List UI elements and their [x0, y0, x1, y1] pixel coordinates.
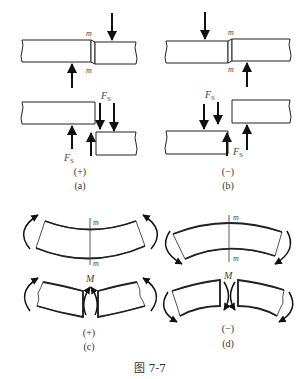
- figure-caption: 图 7-7: [134, 362, 166, 375]
- panel-label: (a): [74, 180, 85, 192]
- moment-label: M: [223, 270, 233, 281]
- sign-label: (−): [222, 323, 234, 335]
- panel-d: m m M (−) (d): [164, 213, 293, 350]
- section-label-m-top: m: [86, 29, 92, 38]
- moment-arrow-ccw-icon: [91, 287, 97, 315]
- section-label-m-top: m: [93, 218, 99, 227]
- sign-label: (−): [222, 166, 234, 178]
- sign-label: (+): [83, 327, 95, 339]
- shear-moment-sign-convention-figure: m m FS FS (+) (a) m m: [0, 0, 302, 379]
- panel-a-beam-deformed: [21, 40, 137, 64]
- shear-force-label-bottom: FS: [232, 146, 243, 159]
- shear-force-label-top: FS: [100, 90, 111, 103]
- sign-label: (+): [74, 166, 86, 178]
- moment-arrow-cw-icon: [84, 287, 90, 315]
- moment-label: M: [85, 273, 95, 284]
- panel-c-beam-bent: [36, 218, 145, 265]
- panel-b-beam-deformed: [165, 39, 291, 63]
- moment-arrow-ccw-icon: [231, 282, 236, 310]
- panel-d-beam-bent: [173, 215, 282, 262]
- section-label-m-top: m: [233, 213, 239, 222]
- shear-force-label-top: FS: [204, 89, 215, 102]
- panel-b: m m FS FS (−) (b): [165, 12, 291, 192]
- moment-arrow-cw-icon: [224, 282, 229, 310]
- section-label-m-bottom: m: [233, 254, 239, 263]
- moment-arrow-cw-icon: [143, 215, 157, 249]
- section-label-m-bottom: m: [93, 259, 99, 268]
- shear-force-label-bottom: FS: [63, 152, 74, 165]
- section-label-m-top: m: [228, 28, 234, 37]
- moment-arrow-ccw-icon: [25, 278, 38, 311]
- section-label-m-bottom: m: [86, 66, 92, 75]
- panel-label: (b): [222, 180, 234, 192]
- moment-arrow-ccw-icon: [24, 215, 38, 249]
- panel-a-free-bodies: [21, 102, 137, 155]
- panel-label: (c): [83, 341, 94, 353]
- panel-a: m m FS FS (+) (a): [21, 13, 137, 192]
- panel-label: (d): [222, 338, 234, 350]
- panel-c: m m M (+) (c): [24, 215, 158, 353]
- section-label-m-bottom: m: [228, 65, 234, 74]
